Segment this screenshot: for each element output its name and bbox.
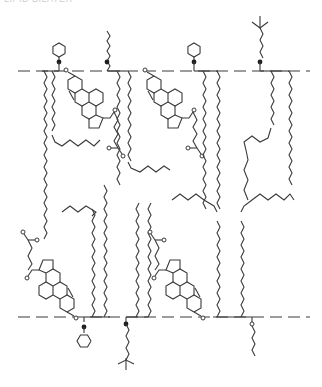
- fatty-acid-chain: [217, 71, 220, 209]
- hydroxyl-oxygen: [192, 108, 196, 112]
- alkyl-headgroup: [260, 28, 263, 58]
- unsaturated-chain: [172, 194, 217, 212]
- fatty-acid-chain: [148, 203, 151, 317]
- side-chain: [155, 240, 159, 270]
- hydroxyl-oxygen: [186, 146, 190, 150]
- steroid-ring-d: [39, 260, 53, 273]
- phosphate-dot: [105, 60, 110, 65]
- steroid-ring-c: [89, 89, 103, 106]
- hydroxyl-oxygen: [121, 154, 125, 158]
- hydroxyl-oxygen: [148, 230, 152, 234]
- fatty-acid-chain: [52, 71, 55, 131]
- hydroxyl-oxygen: [64, 68, 68, 72]
- bond: [147, 72, 154, 76]
- fatty-acid-chain: [104, 185, 107, 317]
- unsaturated-chain: [128, 162, 170, 172]
- steroid-ring-c-upper: [46, 269, 60, 282]
- steroid-ring-c-lower: [82, 106, 96, 119]
- bond: [197, 148, 201, 154]
- hydroxyl-oxygen: [74, 316, 78, 320]
- fatty-acid-chain: [271, 71, 274, 125]
- bond: [24, 234, 28, 240]
- side-chain: [28, 240, 32, 270]
- bond: [67, 312, 74, 316]
- bond: [194, 312, 201, 316]
- unsaturated-chain: [62, 206, 96, 216]
- fatty-acid-chain: [92, 209, 95, 317]
- steroid-ring-c: [166, 282, 180, 299]
- steroid-ring-c: [168, 89, 182, 106]
- polyunsaturated-chain: [244, 128, 271, 200]
- branched-chain: [241, 194, 294, 212]
- hydroxyl-oxygen: [113, 108, 117, 112]
- fatty-acid-chain: [117, 71, 120, 185]
- side-chain: [182, 112, 193, 118]
- steroid-ring-d: [89, 115, 103, 128]
- steroid-ring-c-lower: [161, 106, 175, 119]
- hydroxyl-oxygen: [21, 230, 25, 234]
- lipid-bilayer-diagram: [0, 0, 322, 387]
- fatty-acid-chain: [217, 221, 220, 317]
- steroid-ring-a: [60, 295, 74, 312]
- steroid-ring-a: [187, 295, 201, 312]
- fatty-acid-chain: [203, 71, 206, 209]
- hydroxyl-oxygen: [143, 68, 147, 72]
- hydroxyl-oxygen: [201, 316, 205, 320]
- fatty-acid-chain: [136, 203, 139, 317]
- fatty-acid-chain: [44, 71, 47, 239]
- hydroxyl-oxygen: [250, 322, 254, 326]
- hydroxyl-oxygen: [107, 146, 111, 150]
- side-chain: [103, 112, 114, 118]
- steroid-ring-a: [147, 76, 161, 93]
- fatty-acid-chain: [289, 71, 292, 185]
- side-chain: [28, 270, 39, 276]
- hydroxyl-oxygen: [35, 238, 39, 242]
- bond: [68, 72, 75, 76]
- alkyl-headgroup: [126, 324, 129, 360]
- hydroxyl-oxygen: [162, 238, 166, 242]
- alkyl-headgroup: [252, 326, 255, 356]
- fatty-acid-chain: [241, 221, 244, 317]
- inositol-ring-icon: [77, 335, 91, 347]
- steroid-ring-d: [168, 115, 182, 128]
- steroid-ring-c-upper: [173, 269, 187, 282]
- side-chain: [155, 270, 166, 276]
- hydroxyl-oxygen: [25, 276, 29, 280]
- steroid-ring-c: [39, 282, 53, 299]
- unsaturated-chain: [52, 135, 100, 146]
- bond: [151, 234, 155, 240]
- alkyl-headgroup: [107, 31, 110, 71]
- inositol-ring-icon: [188, 43, 200, 57]
- steroid-ring-d: [166, 260, 180, 273]
- side-chain: [193, 112, 197, 148]
- fatty-acid-chain: [128, 71, 131, 161]
- steroid-ring-a: [68, 76, 82, 93]
- inositol-ring-icon: [53, 43, 65, 57]
- hydroxyl-oxygen: [152, 276, 156, 280]
